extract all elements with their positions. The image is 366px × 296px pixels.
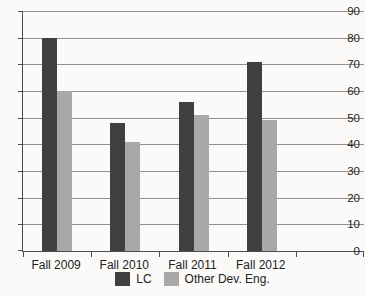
y-tick-label: 0 xyxy=(340,245,360,257)
y-axis-tick xyxy=(18,38,23,39)
bar-lc xyxy=(247,62,262,251)
legend-label-other-dev-eng: Other Dev. Eng. xyxy=(185,272,270,286)
y-tick-label: 10 xyxy=(340,218,360,230)
bar-lc xyxy=(110,123,125,251)
bar-chart-figure: 0102030405060708090 Fall 2009Fall 2010Fa… xyxy=(0,0,366,296)
y-axis-tick xyxy=(18,144,23,145)
legend-swatch-lc xyxy=(115,272,130,286)
y-axis-tick xyxy=(18,250,23,251)
plot-area xyxy=(22,11,364,252)
y-axis-tick xyxy=(18,91,23,92)
y-tick-label: 90 xyxy=(340,5,360,17)
x-tick-label: Fall 2012 xyxy=(236,258,285,272)
y-axis-tick xyxy=(18,118,23,119)
bar-lc xyxy=(179,102,194,251)
y-tick-label: 40 xyxy=(340,138,360,150)
y-tick-label: 80 xyxy=(340,32,360,44)
x-axis-tick xyxy=(363,252,364,257)
y-axis-tick xyxy=(18,11,23,12)
y-axis-tick xyxy=(18,64,23,65)
y-tick-label: 50 xyxy=(340,112,360,124)
x-tick-label: Fall 2011 xyxy=(168,258,216,272)
bar-other-dev-eng xyxy=(262,120,277,251)
gridline xyxy=(23,64,364,65)
gridline xyxy=(23,38,364,39)
x-axis-tick xyxy=(91,252,92,257)
x-axis-tick xyxy=(159,252,160,257)
gridline xyxy=(23,11,364,12)
legend: LCOther Dev. Eng. xyxy=(22,272,363,286)
y-axis-tick xyxy=(18,198,23,199)
legend-item-lc: LC xyxy=(115,272,151,286)
x-axis-tick xyxy=(23,252,24,257)
x-tick-label: Fall 2009 xyxy=(31,258,80,272)
y-axis-tick xyxy=(18,171,23,172)
bar-other-dev-eng xyxy=(194,115,209,251)
y-tick-label: 20 xyxy=(340,192,360,204)
x-axis-tick xyxy=(228,252,229,257)
y-tick-label: 30 xyxy=(340,165,360,177)
x-axis-tick xyxy=(296,252,297,257)
gridline xyxy=(23,91,364,92)
legend-swatch-other-dev-eng xyxy=(164,272,179,286)
legend-label-lc: LC xyxy=(136,272,151,286)
y-tick-label: 60 xyxy=(340,85,360,97)
bar-other-dev-eng xyxy=(125,142,140,251)
legend-item-other-dev-eng: Other Dev. Eng. xyxy=(164,272,270,286)
bar-other-dev-eng xyxy=(57,91,72,251)
x-tick-label: Fall 2010 xyxy=(100,258,149,272)
bar-lc xyxy=(42,38,57,251)
y-axis-tick xyxy=(18,224,23,225)
y-tick-label: 70 xyxy=(340,58,360,70)
